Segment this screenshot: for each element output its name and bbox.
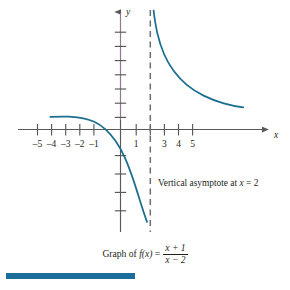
- caption-fraction: x + 1 x − 2: [163, 243, 187, 265]
- curve-right-branch: [154, 11, 244, 108]
- x-tick-label--2: –2: [74, 139, 85, 149]
- y-axis: y: [115, 7, 131, 232]
- x-tick-label-1: 1: [134, 139, 139, 149]
- caption-lead-text: Graph of f(x) =: [102, 249, 160, 259]
- x-tick-label--1: –1: [88, 139, 99, 149]
- asymptote-annotation-suffix: = 2: [244, 178, 259, 188]
- x-axis-tick-labels: –5 –4 –3 –2 –1 1 3 4 5: [32, 139, 195, 149]
- x-tick-label-3: 3: [162, 139, 167, 149]
- bottom-rule-bar: [6, 273, 135, 279]
- caption-function-label: f(x): [139, 248, 152, 259]
- asymptote-annotation: Vertical asymptote at x = 2: [158, 178, 259, 188]
- figure-caption: Graph of f(x) = x + 1 x − 2: [0, 243, 290, 265]
- fraction-denominator: x − 2: [163, 255, 187, 265]
- x-axis: x –5 –4 –3 –2 –1 1: [18, 124, 279, 149]
- fraction-numerator: x + 1: [163, 243, 187, 253]
- x-tick-label--5: –5: [32, 139, 43, 149]
- y-axis-label: y: [125, 7, 131, 17]
- curve-left-branch: [50, 117, 147, 222]
- figure-container: x –5 –4 –3 –2 –1 1: [0, 0, 290, 290]
- asymptote-annotation-prefix: Vertical asymptote at: [158, 178, 239, 188]
- x-tick-label-5: 5: [190, 139, 195, 149]
- x-tick-label-4: 4: [176, 139, 181, 149]
- x-tick-label--3: –3: [60, 139, 71, 149]
- x-tick-label--4: –4: [46, 139, 57, 149]
- x-axis-label: x: [273, 130, 279, 140]
